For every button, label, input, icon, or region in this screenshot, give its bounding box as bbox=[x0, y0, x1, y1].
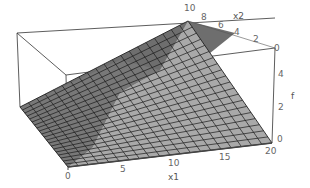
f-tick: 4 bbox=[278, 70, 284, 79]
x2-tick: 10 bbox=[184, 4, 195, 13]
x2-tick: 0 bbox=[274, 44, 280, 53]
x2-tick: 8 bbox=[201, 13, 207, 22]
x1-tick: 20 bbox=[265, 147, 276, 156]
f-tick: 0 bbox=[277, 135, 283, 144]
x2-tick: 2 bbox=[253, 35, 259, 44]
x2-tick: 6 bbox=[218, 21, 224, 30]
x1-axis-label: x1 bbox=[168, 173, 179, 182]
f-axis-label: f bbox=[291, 92, 294, 101]
x1-tick: 15 bbox=[219, 153, 230, 162]
f-tick: 2 bbox=[278, 103, 284, 112]
x1-tick: 10 bbox=[168, 159, 179, 168]
x1-tick: 5 bbox=[120, 165, 126, 174]
surface-plot bbox=[0, 0, 310, 188]
x2-tick: 4 bbox=[234, 28, 240, 37]
x1-tick: 0 bbox=[65, 172, 71, 181]
x2-axis-label: x2 bbox=[233, 12, 244, 21]
